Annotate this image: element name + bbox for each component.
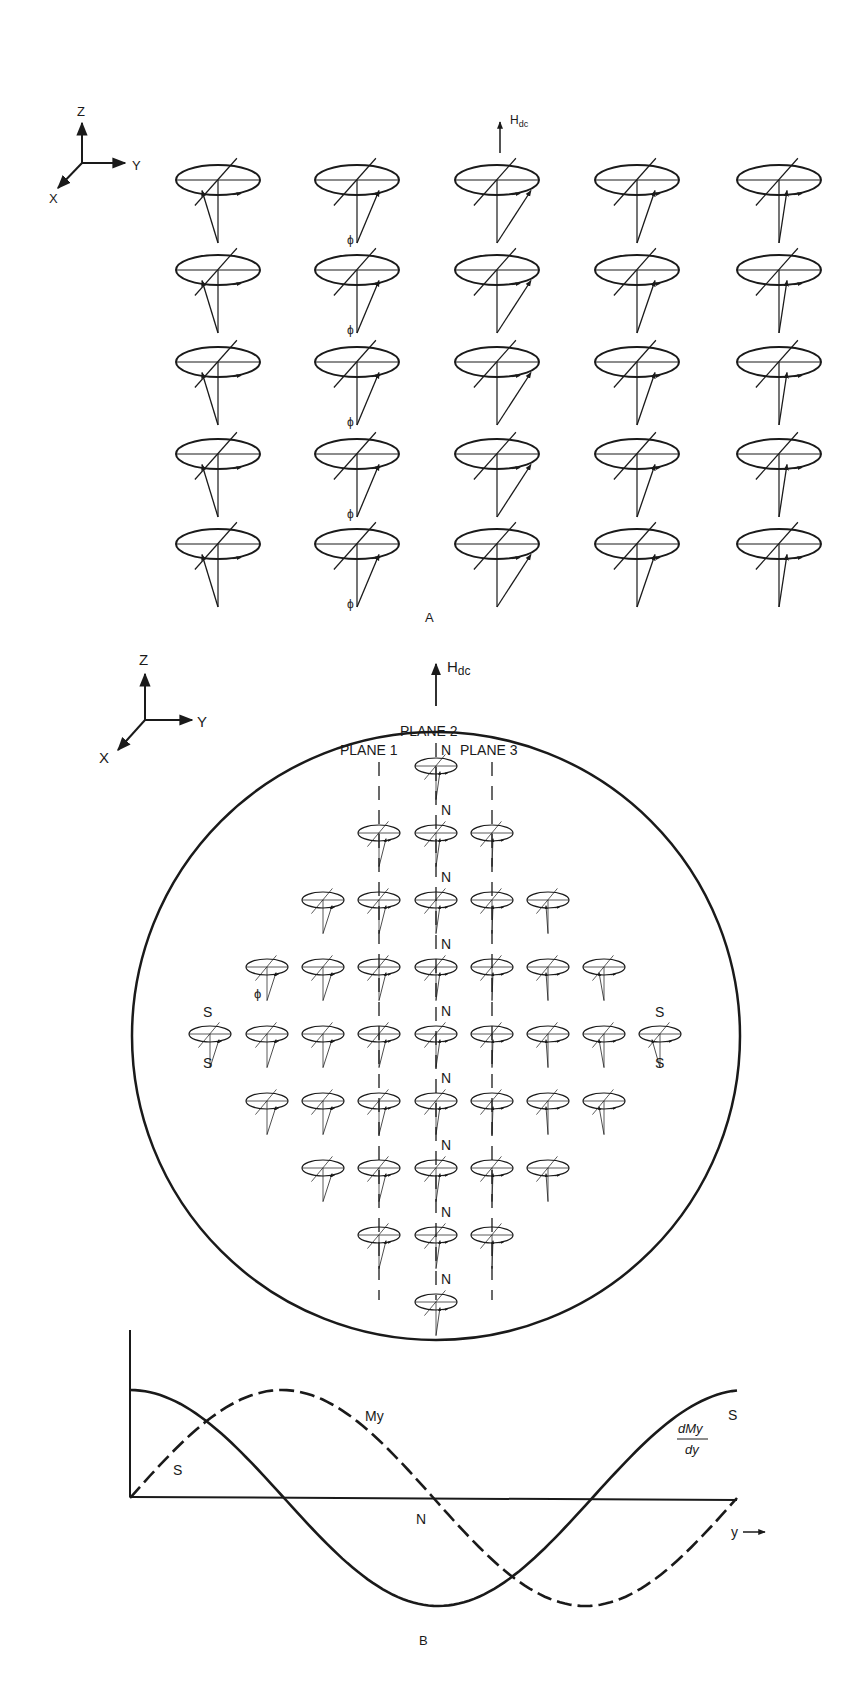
north-label: N bbox=[441, 802, 451, 818]
axis-z-label-b: Z bbox=[139, 651, 148, 668]
precession-glyph-b-r5-c7 bbox=[527, 1022, 569, 1067]
axis-y-label-a: Y bbox=[132, 158, 141, 173]
north-label: N bbox=[441, 1271, 451, 1287]
precession-glyph-b-r2-c1 bbox=[358, 821, 400, 866]
phi-label: ϕ bbox=[347, 415, 354, 429]
precession-glyph-r1-c1 bbox=[176, 158, 260, 243]
precession-glyph-r1-c2: ϕ bbox=[315, 158, 399, 247]
precession-glyph-r4-c1 bbox=[176, 432, 260, 517]
figure-canvas: Z Y X Hdc ϕϕϕϕϕ A Z Y X Hdc PLANE 2 PLAN… bbox=[0, 0, 866, 1693]
precession-glyph-r2-c5 bbox=[737, 248, 821, 333]
precession-glyph-r1-c5 bbox=[737, 158, 821, 243]
south-label: S bbox=[655, 1055, 664, 1071]
pole-labels-b: NNNNNNNNNSSSSϕ bbox=[203, 742, 664, 1287]
precession-glyph-b-r6-c6 bbox=[527, 1089, 569, 1134]
precession-glyph-b-r2-c3 bbox=[471, 821, 513, 866]
north-label: N bbox=[441, 1204, 451, 1220]
label-dmy-den: dy bbox=[685, 1442, 700, 1457]
precession-glyph-b-r6-c4 bbox=[415, 1089, 457, 1134]
north-label: N bbox=[441, 936, 451, 952]
label-n: N bbox=[416, 1511, 426, 1527]
precession-glyph-b-r6-c3 bbox=[358, 1089, 400, 1134]
precession-glyph-b-r5-c2 bbox=[246, 1022, 288, 1067]
north-label: N bbox=[441, 1070, 451, 1086]
plane-3-label: PLANE 3 bbox=[460, 742, 518, 758]
label-s-left: S bbox=[173, 1462, 182, 1478]
precession-glyph-r2-c1 bbox=[176, 248, 260, 333]
north-label: N bbox=[441, 869, 451, 885]
south-label: S bbox=[203, 1004, 212, 1020]
phi-label: ϕ bbox=[347, 507, 354, 521]
precession-glyph-b-r3-c1 bbox=[302, 888, 344, 933]
precession-glyph-b-r6-c2 bbox=[302, 1089, 344, 1134]
precession-glyph-r3-c4 bbox=[595, 340, 679, 425]
phi-label: ϕ bbox=[347, 597, 354, 611]
caption-a: A bbox=[425, 610, 434, 625]
precession-array-b bbox=[189, 754, 681, 1335]
label-dmy-num: dMy bbox=[678, 1421, 704, 1436]
precession-glyph-b-r6-c7 bbox=[583, 1089, 625, 1134]
plane-lines bbox=[379, 743, 492, 1300]
precession-glyph-r1-c3 bbox=[455, 158, 539, 243]
precession-glyph-r5-c1 bbox=[176, 522, 260, 607]
label-s-right: S bbox=[728, 1407, 737, 1423]
plane-1-label: PLANE 1 bbox=[340, 742, 398, 758]
precession-glyph-r5-c3 bbox=[455, 522, 539, 607]
axes-triad-b bbox=[118, 674, 192, 750]
precession-glyph-r5-c2: ϕ bbox=[315, 522, 399, 611]
precession-glyph-r3-c3 bbox=[455, 340, 539, 425]
precession-glyph-r1-c4 bbox=[595, 158, 679, 243]
precession-grid-a: ϕϕϕϕϕ bbox=[176, 158, 821, 611]
precession-glyph-r2-c3 bbox=[455, 248, 539, 333]
axes-triad-a bbox=[58, 123, 125, 188]
south-label: S bbox=[655, 1004, 664, 1020]
axis-x-label-a: X bbox=[49, 191, 58, 206]
caption-b: B bbox=[419, 1633, 428, 1648]
precession-glyph-r3-c5 bbox=[737, 340, 821, 425]
north-label: N bbox=[441, 1137, 451, 1153]
north-label: N bbox=[441, 742, 451, 758]
phi-label-b: ϕ bbox=[254, 986, 261, 1001]
precession-glyph-b-r6-c5 bbox=[471, 1089, 513, 1134]
precession-glyph-b-r4-c6 bbox=[527, 955, 569, 1000]
precession-glyph-b-r5-c8 bbox=[583, 1022, 625, 1067]
precession-glyph-b-r3-c5 bbox=[527, 888, 569, 933]
precession-glyph-r3-c1 bbox=[176, 340, 260, 425]
label-y-axis: y bbox=[731, 1524, 738, 1540]
precession-glyph-b-r7-c2 bbox=[358, 1156, 400, 1201]
panel-a: Z Y X Hdc ϕϕϕϕϕ A bbox=[49, 104, 821, 625]
precession-glyph-r4-c5 bbox=[737, 432, 821, 517]
precession-glyph-r5-c4 bbox=[595, 522, 679, 607]
precession-glyph-b-r7-c1 bbox=[302, 1156, 344, 1201]
precession-glyph-b-r5-c5 bbox=[415, 1022, 457, 1067]
precession-glyph-b-r7-c4 bbox=[471, 1156, 513, 1201]
precession-glyph-b-r4-c1 bbox=[246, 955, 288, 1000]
precession-glyph-r5-c5 bbox=[737, 522, 821, 607]
precession-glyph-r4-c3 bbox=[455, 432, 539, 517]
phi-label: ϕ bbox=[347, 323, 354, 337]
precession-glyph-r4-c4 bbox=[595, 432, 679, 517]
precession-glyph-b-r1-c1 bbox=[415, 754, 457, 799]
phi-label: ϕ bbox=[347, 233, 354, 247]
precession-glyph-r3-c2: ϕ bbox=[315, 340, 399, 429]
my-chart: S My N dMy dy S y B bbox=[130, 1330, 765, 1648]
precession-glyph-r2-c4 bbox=[595, 248, 679, 333]
north-label: N bbox=[441, 1003, 451, 1019]
precession-glyph-b-r5-c3 bbox=[302, 1022, 344, 1067]
panel-b: Z Y X Hdc PLANE 2 PLANE 1 PLANE 3 NNNNNN… bbox=[99, 651, 740, 1340]
precession-glyph-b-r7-c5 bbox=[527, 1156, 569, 1201]
axis-x-label-b: X bbox=[99, 749, 109, 766]
precession-glyph-r2-c2: ϕ bbox=[315, 248, 399, 337]
label-my: My bbox=[365, 1408, 384, 1424]
precession-glyph-b-r4-c7 bbox=[583, 955, 625, 1000]
south-label: S bbox=[203, 1055, 212, 1071]
plane-2-label: PLANE 2 bbox=[400, 723, 458, 739]
axis-z-label-a: Z bbox=[77, 104, 85, 119]
hdc-label-b: Hdc bbox=[447, 658, 471, 678]
precession-glyph-b-r6-c1 bbox=[246, 1089, 288, 1134]
hdc-label-a: Hdc bbox=[510, 113, 529, 129]
precession-glyph-b-r4-c2 bbox=[302, 955, 344, 1000]
precession-glyph-r4-c2: ϕ bbox=[315, 432, 399, 521]
axis-y-label-b: Y bbox=[197, 713, 207, 730]
